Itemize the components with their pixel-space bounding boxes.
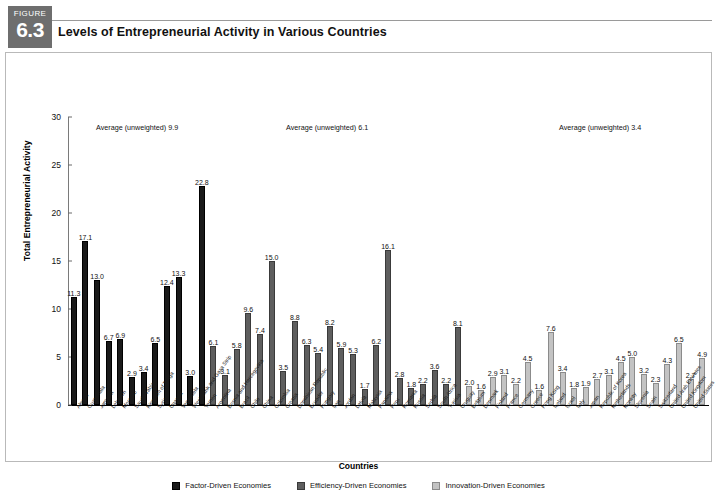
bar-value-label: 3.0	[185, 369, 195, 376]
bar-value-label: 2.2	[418, 377, 428, 384]
bar-value-label: 4.5	[616, 355, 626, 362]
bar: 22.8	[199, 186, 205, 405]
bar-value-label: 7.6	[546, 325, 556, 332]
bar-value-label: 6.2	[371, 338, 381, 345]
y-tick-label: 10	[52, 304, 68, 314]
bar-value-label: 1.8	[569, 381, 579, 388]
bar-value-label: 3.5	[278, 364, 288, 371]
y-tick-label: 30	[52, 112, 68, 122]
y-axis-label: Total Entrepreneurial Activity	[22, 140, 32, 261]
chart-legend: Factor-Driven Economies Efficiency-Drive…	[6, 481, 711, 490]
bar-value-label: 6.3	[302, 338, 312, 345]
bar-value-label: 8.2	[325, 319, 335, 326]
average-annotation: Average (unweighted) 3.4	[559, 123, 641, 132]
bar: 13.3	[176, 277, 182, 405]
bar-value-label: 8.8	[290, 314, 300, 321]
figure-badge-number: 6.3	[16, 19, 44, 41]
x-axis-label: Countries	[6, 461, 711, 471]
y-tick-label: 20	[52, 208, 68, 218]
bar-value-label: 6.1	[209, 339, 219, 346]
bar: 15.0	[269, 261, 275, 405]
bar-value-label: 6.5	[674, 336, 684, 343]
y-tick-mark	[68, 165, 72, 166]
chart-plate: Total Entrepreneurial Activity Countries…	[5, 52, 712, 462]
bar-value-label: 2.9	[127, 370, 137, 377]
y-tick-label: 0	[56, 400, 68, 410]
bar-value-label: 8.1	[453, 320, 463, 327]
bar-value-label: 3.4	[558, 365, 568, 372]
bar-value-label: 5.8	[232, 342, 242, 349]
bar-value-label: 3.1	[604, 368, 614, 375]
y-tick-mark	[68, 261, 72, 262]
bar-value-label: 2.2	[441, 377, 451, 384]
plot-area: 051015202530 11.317.113.06.76.92.93.46.5…	[68, 117, 708, 405]
bar-value-label: 22.8	[195, 179, 209, 186]
bar-value-label: 2.2	[511, 377, 521, 384]
bar-value-label: 15.0	[265, 254, 279, 261]
legend-item-efficiency: Efficiency-Driven Economies	[297, 481, 407, 490]
bar-value-label: 5.4	[313, 346, 323, 353]
bar-value-label: 4.3	[662, 357, 672, 364]
header-divider	[52, 20, 712, 21]
bar-value-label: 13.0	[90, 273, 104, 280]
legend-item-innovation: Innovation-Driven Economies	[432, 481, 544, 490]
y-tick-label: 25	[52, 160, 68, 170]
bar-value-label: 5.0	[627, 350, 637, 357]
bar-value-label: 2.9	[488, 370, 498, 377]
bar-value-label: 6.9	[115, 332, 125, 339]
bar: 5.9	[338, 348, 344, 405]
bar-value-label: 1.8	[406, 381, 416, 388]
legend-item-factor: Factor-Driven Economies	[172, 481, 271, 490]
bar-value-label: 6.5	[150, 336, 160, 343]
bar-value-label: 3.4	[139, 365, 149, 372]
bar-value-label: 3.1	[499, 368, 509, 375]
bar-value-label: 2.7	[593, 372, 603, 379]
figure-title: Levels of Entrepreneurial Activity in Va…	[58, 25, 387, 39]
legend-swatch-efficiency-icon	[297, 482, 305, 490]
legend-swatch-innovation-icon	[432, 482, 440, 490]
y-tick-mark	[68, 117, 72, 118]
y-tick-mark	[68, 213, 72, 214]
bar-value-label: 3.2	[639, 367, 649, 374]
bar-value-label: 1.6	[476, 383, 486, 390]
bar-value-label: 11.3	[67, 290, 80, 297]
bar-value-label: 5.9	[337, 341, 347, 348]
bar-value-label: 6.7	[104, 334, 114, 341]
legend-label-innovation: Innovation-Driven Economies	[445, 481, 544, 490]
legend-label-efficiency: Efficiency-Driven Economies	[310, 481, 407, 490]
bar-value-label: 9.6	[243, 306, 253, 313]
bar-value-label: 1.6	[534, 383, 544, 390]
bar-value-label: 13.3	[172, 270, 186, 277]
bar-value-label: 1.9	[581, 380, 591, 387]
bar-value-label: 3.6	[430, 363, 440, 370]
average-annotation: Average (unweighted) 9.9	[96, 123, 178, 132]
bar-value-label: 12.4	[160, 279, 174, 286]
bar-value-label: 2.0	[465, 379, 475, 386]
bar-value-label: 7.4	[255, 327, 265, 334]
bar: 16.1	[385, 250, 391, 405]
bar-value-label: 4.5	[523, 355, 533, 362]
bar-value-label: 2.3	[651, 376, 661, 383]
average-annotation: Average (unweighted) 6.1	[286, 123, 368, 132]
bar-value-label: 17.1	[79, 234, 93, 241]
bar: 17.1	[82, 241, 88, 405]
bar-value-label: 2.8	[395, 371, 405, 378]
bar-value-label: 5.3	[348, 347, 358, 354]
bar: 11.3	[71, 297, 77, 405]
legend-swatch-factor-icon	[172, 482, 180, 490]
y-tick-label: 5	[56, 352, 68, 362]
legend-label-factor: Factor-Driven Economies	[185, 481, 271, 490]
bar-value-label: 1.7	[360, 382, 370, 389]
figure-badge: FIGURE 6.3	[8, 6, 52, 48]
bar-value-label: 16.1	[381, 243, 395, 250]
bar-value-label: 4.9	[697, 351, 707, 358]
y-tick-label: 15	[52, 256, 68, 266]
bar: 9.6	[245, 313, 251, 405]
